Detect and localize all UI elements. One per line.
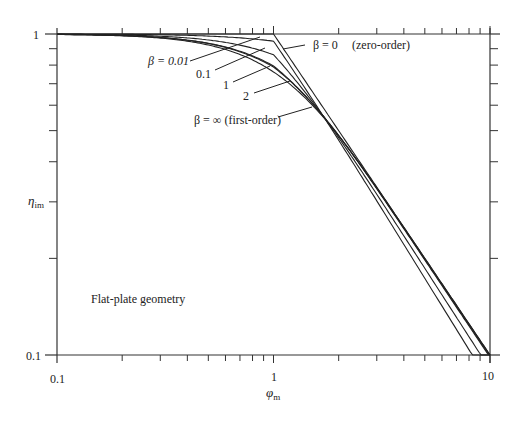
y-tick-label-0.1: 0.1: [26, 349, 41, 363]
curve-beta-0: [57, 34, 490, 355]
geometry-annotation: Flat-plate geometry: [91, 292, 185, 306]
effectiveness-factor-chart: β = 0.01 0.1 1 2 β = ∞ (first-order) β =…: [0, 0, 530, 427]
y-tick-label-1: 1: [33, 28, 39, 42]
axis-ticks: [49, 26, 498, 363]
data-curves: [57, 34, 490, 355]
y-axis-label-subscript: im: [34, 200, 44, 210]
y-axis-label: ηim: [28, 193, 44, 210]
x-axis-label-subscript: m: [273, 392, 280, 402]
x-tick-label-1: 1: [271, 370, 277, 384]
x-tick-label-10: 10: [482, 369, 494, 383]
curve-beta-0.01: [57, 34, 490, 355]
label-zero-order: (zero-order): [352, 38, 410, 52]
curve-beta-2: [57, 34, 490, 355]
label-beta-0.01: β = 0.01: [147, 54, 189, 68]
x-tick-label-0.1: 0.1: [50, 372, 65, 386]
curve-beta-0.1: [57, 34, 490, 355]
x-axis-label: φm: [266, 385, 280, 402]
curve-beta-1: [57, 34, 490, 355]
label-beta-inf: β = ∞ (first-order): [194, 113, 281, 127]
plot-frame: [45, 28, 500, 363]
label-beta-1: 1: [223, 78, 229, 92]
label-beta-0: β = 0: [313, 38, 338, 52]
label-beta-2: 2: [243, 89, 249, 103]
curve-beta-inf: [57, 35, 490, 356]
label-beta-0.1: 0.1: [196, 67, 211, 81]
